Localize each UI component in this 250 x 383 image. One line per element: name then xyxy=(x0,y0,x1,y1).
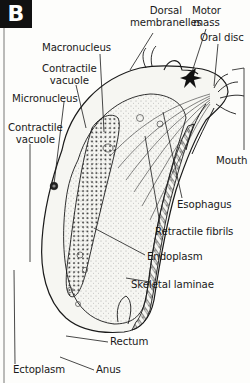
label-retractile-fibrils: Retractile fibrils xyxy=(155,226,233,238)
diagram-drawing xyxy=(0,0,250,383)
label-motor-mass: Motor mass xyxy=(192,5,221,28)
label-contractile-vacuole-top: Contractile vacuole xyxy=(42,63,97,86)
label-ectoplasm: Ectoplasm xyxy=(13,364,65,376)
label-endoplasm: Endoplasm xyxy=(147,251,202,263)
label-line: mass xyxy=(192,17,221,29)
label-line: Contractile xyxy=(42,63,97,75)
label-line: Motor xyxy=(192,5,221,17)
label-line: membranelles xyxy=(130,17,202,29)
label-anus: Anus xyxy=(96,364,121,376)
ciliate-anatomy-diagram: B Dorsal membranelles Motor mass Oral di… xyxy=(0,0,250,383)
label-line: vacuole xyxy=(8,134,63,146)
label-esophagus: Esophagus xyxy=(177,199,231,211)
label-oral-disc: Oral disc xyxy=(200,32,244,44)
label-macronucleus: Macronucleus xyxy=(42,42,111,54)
label-mouth: Mouth xyxy=(216,155,247,167)
label-micronucleus: Micronucleus xyxy=(12,93,78,105)
label-line: Dorsal xyxy=(130,5,202,17)
label-line: vacuole xyxy=(42,75,97,87)
label-contractile-vacuole-left: Contractile vacuole xyxy=(8,122,63,145)
label-rectum: Rectum xyxy=(110,336,148,348)
panel-letter-badge: B xyxy=(0,0,32,28)
label-line: Contractile xyxy=(8,122,63,134)
label-skeletal-laminae: Skeletal laminae xyxy=(131,279,214,291)
label-dorsal-membranelles: Dorsal membranelles xyxy=(130,5,202,28)
